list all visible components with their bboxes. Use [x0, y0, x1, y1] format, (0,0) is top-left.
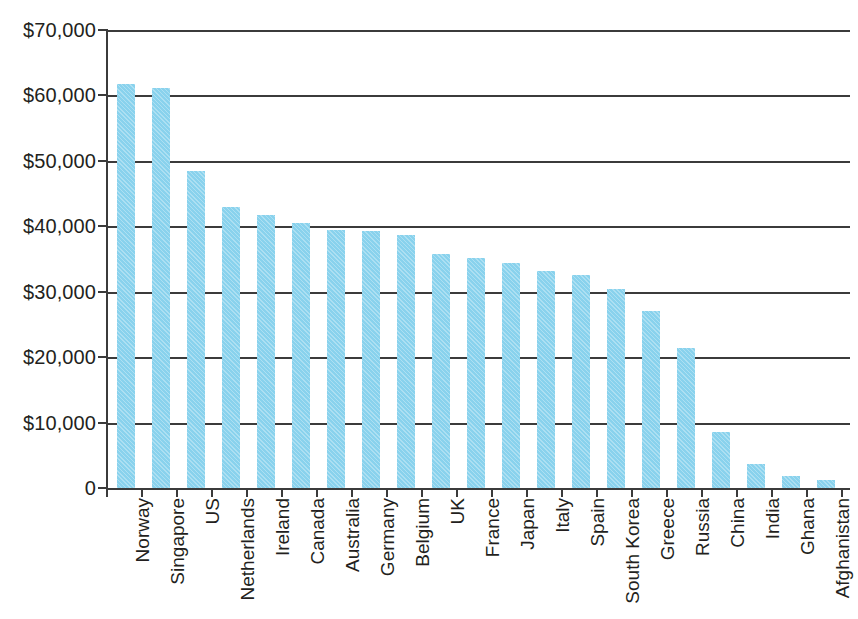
bar [607, 289, 625, 488]
bar [397, 235, 415, 488]
x-axis-tick-label: Singapore [168, 498, 187, 585]
x-axis-tick-mark [421, 488, 423, 497]
x-axis-tick-mark [491, 488, 493, 497]
bar [712, 432, 730, 488]
bar [817, 480, 835, 488]
bar [537, 271, 555, 488]
x-axis-tick-mark [456, 488, 458, 497]
bar [257, 215, 275, 488]
x-axis-tick-label: South Korea [623, 498, 642, 604]
x-axis-tick-mark [736, 488, 738, 497]
x-axis-tick-label: Spain [588, 498, 607, 547]
x-axis-tick-label: Norway [133, 498, 152, 562]
x-axis-tick-mark [841, 488, 843, 497]
y-axis-tick-label: $70,000 [23, 20, 96, 40]
bar [362, 231, 380, 488]
x-axis-tick-label: UK [448, 498, 467, 524]
bar [292, 223, 310, 488]
x-axis-tick-label: Greece [658, 498, 677, 560]
x-axis-tick-label: Belgium [413, 498, 432, 567]
x-axis-tick-mark [806, 488, 808, 497]
x-axis-tick-label: Germany [378, 498, 397, 576]
y-axis-tick-label: $10,000 [23, 413, 96, 433]
x-axis-tick-mark [106, 488, 108, 497]
x-axis-tick-label: Australia [343, 498, 362, 572]
y-axis-tick-label: 0 [85, 478, 96, 498]
x-axis-tick-mark [596, 488, 598, 497]
y-axis-tick-label: $20,000 [23, 347, 96, 367]
x-axis-tick-label: Canada [308, 498, 327, 565]
x-axis-tick-mark [771, 488, 773, 497]
x-axis-tick-label: India [763, 498, 782, 539]
bar [572, 275, 590, 488]
bar [187, 171, 205, 488]
x-axis-tick-mark [141, 488, 143, 497]
x-axis-tick-label: Afghanistan [833, 498, 852, 598]
bar [502, 263, 520, 488]
bar [782, 476, 800, 488]
x-axis-labels: NorwaySingaporeUSNetherlandsIrelandCanad… [106, 498, 850, 619]
bar [432, 254, 450, 488]
x-axis-tick-label: Ireland [273, 498, 292, 556]
x-axis-tick-mark [351, 488, 353, 497]
x-axis-tick-label: Italy [553, 498, 572, 533]
y-axis-tick-label: $40,000 [23, 216, 96, 236]
bar [117, 84, 135, 488]
x-axis-ticks [106, 488, 850, 498]
y-axis-tick-label: $30,000 [23, 282, 96, 302]
x-axis-tick-label: Japan [518, 498, 537, 550]
bar-chart: 0$10,000$20,000$30,000$40,000$50,000$60,… [0, 0, 858, 619]
x-axis-tick-mark [701, 488, 703, 497]
bar [327, 230, 345, 488]
bar [677, 348, 695, 488]
x-axis-tick-mark [246, 488, 248, 497]
x-axis-tick-label: Ghana [798, 498, 817, 555]
x-axis-tick-label: Netherlands [238, 498, 257, 600]
bar [747, 464, 765, 488]
bar [642, 311, 660, 488]
bar [152, 88, 170, 488]
x-axis-tick-mark [386, 488, 388, 497]
x-axis-tick-mark [631, 488, 633, 497]
x-axis-tick-mark [526, 488, 528, 497]
y-axis-labels: 0$10,000$20,000$30,000$40,000$50,000$60,… [0, 0, 96, 619]
x-axis-tick-mark [281, 488, 283, 497]
x-axis-tick-mark [561, 488, 563, 497]
x-axis-tick-label: China [728, 498, 747, 548]
y-axis-tick-label: $60,000 [23, 85, 96, 105]
x-axis-tick-mark [316, 488, 318, 497]
x-axis-tick-label: Russia [693, 498, 712, 556]
x-axis-tick-label: US [203, 498, 222, 524]
x-axis-tick-label: France [483, 498, 502, 557]
x-axis-tick-mark [666, 488, 668, 497]
y-axis-tick-label: $50,000 [23, 151, 96, 171]
bar [222, 207, 240, 488]
bar-series [106, 30, 850, 488]
bar [467, 258, 485, 488]
x-axis-tick-mark [211, 488, 213, 497]
x-axis-tick-mark [176, 488, 178, 497]
